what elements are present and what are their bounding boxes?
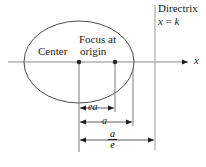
directrix-label: Directrix	[158, 3, 198, 15]
center-label: Center	[38, 46, 67, 58]
fraction-numerator: a	[108, 129, 117, 139]
fraction-denominator: e	[108, 140, 117, 150]
directrix-eq-value: k	[175, 15, 180, 27]
dimension-ea-label: ea	[88, 102, 97, 113]
center-point-dot	[77, 60, 82, 65]
dimension-a-over-e-label: a e	[108, 129, 117, 150]
directrix-equation-label: x = k	[158, 16, 180, 28]
x-axis-label: x	[194, 55, 199, 67]
directrix-eq-relation: =	[163, 15, 175, 27]
dimension-a-label: a	[102, 116, 107, 127]
focus-point-dot	[113, 60, 118, 65]
ellipse-directrix-figure: Directrix x = k Focus at Center origin x…	[0, 0, 206, 167]
origin-label: origin	[80, 46, 106, 58]
focus-at-label: Focus at	[79, 34, 116, 46]
